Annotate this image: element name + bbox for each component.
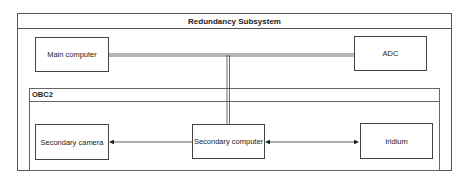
node-secondary-camera: Secondary camera: [35, 124, 109, 160]
node-iridium: Iridium: [360, 123, 433, 159]
node-main-computer: Main computer: [35, 37, 109, 72]
node-adc: ADC: [354, 36, 427, 71]
node-secondary-computer: Secondary computer: [192, 124, 265, 159]
